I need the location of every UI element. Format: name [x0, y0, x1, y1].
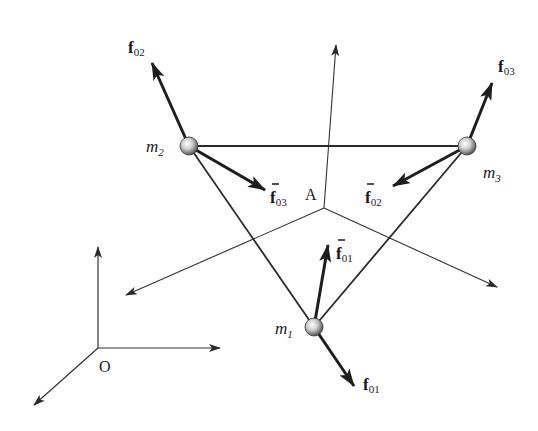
force-f02-label: f02 — [128, 38, 145, 58]
force-fbar01-arrow — [314, 245, 328, 327]
edge-m2-m1 — [189, 146, 314, 327]
force-f02-arrow — [152, 63, 189, 146]
force-f01-arrow — [314, 327, 354, 386]
force-f03-label: f03 — [498, 57, 515, 77]
mass-triangle — [189, 146, 467, 327]
origin-label: O — [99, 358, 111, 375]
svg-text:f03: f03 — [270, 188, 287, 208]
force-fbar01-label: f01 — [336, 240, 353, 264]
force-f01-label: f01 — [363, 375, 380, 395]
force-fbar03-arrow — [189, 146, 265, 190]
mass-m2-sphere — [180, 137, 198, 155]
force-fbar02-label: f02 — [365, 184, 382, 208]
mass-m1-sphere — [305, 318, 323, 336]
axis-A-left — [126, 208, 324, 295]
force-f03-arrow — [467, 83, 492, 146]
reference-frame-A: A — [126, 45, 497, 295]
mass-m2-label: m2 — [146, 137, 164, 158]
mass-m3-label: m3 — [483, 163, 501, 184]
center-label-A: A — [305, 186, 317, 203]
reference-frame-O: O — [34, 247, 220, 405]
force-vectors — [152, 63, 492, 386]
edge-m3-m1 — [314, 146, 467, 327]
mass-m3-sphere — [458, 137, 476, 155]
diagram-canvas: O A m2 m3 m1 f02 f03 f01 f03 f — [0, 0, 538, 431]
svg-text:f02: f02 — [365, 188, 382, 208]
axis-A-up — [324, 45, 336, 208]
axis-A-right — [324, 208, 497, 287]
force-fbar02-arrow — [393, 146, 467, 186]
svg-text:f01: f01 — [336, 244, 353, 264]
axis-O-down-left — [34, 348, 98, 405]
force-fbar03-label: f03 — [270, 184, 287, 208]
mass-m1-label: m1 — [275, 319, 293, 340]
